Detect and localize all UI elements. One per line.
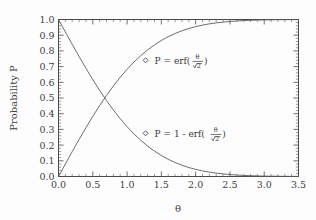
fraction-denominator: 2 (197, 62, 201, 70)
annotation-suffix: ) (204, 56, 208, 66)
y-tick-label: 0.2 (39, 140, 54, 151)
fraction-numerator: θ (214, 126, 218, 134)
plot-svg: 0.00.51.01.52.02.53.03.5 0.00.10.20.30.4… (0, 0, 316, 220)
x-tick-label: 1.0 (120, 179, 135, 190)
y-tick-label: 1.0 (39, 14, 54, 25)
x-tick-label: 0.5 (85, 179, 100, 190)
chart-page: 0.00.51.01.52.02.53.03.5 0.00.10.20.30.4… (0, 0, 316, 220)
x-tick-label: 2.5 (222, 179, 237, 190)
x-tick-label: 2.0 (188, 179, 203, 190)
x-tick-label: 3.5 (291, 179, 306, 190)
y-axis-title: Probability P (8, 65, 19, 131)
x-tick-label: 1.5 (154, 179, 169, 190)
annotation-prefix: P = erf( (155, 56, 191, 66)
y-tick-label: 0.1 (39, 155, 54, 166)
y-axis-tick-labels: 0.00.10.20.30.40.50.60.70.80.91.0 (39, 14, 54, 182)
y-tick-label: 0.7 (39, 61, 54, 72)
y-tick-label: 0.9 (39, 30, 54, 41)
y-tick-label: 0.4 (39, 108, 54, 119)
y-tick-label: 0.5 (39, 92, 54, 103)
fraction-numerator: θ (196, 53, 200, 61)
erf-probability-chart: 0.00.51.01.52.02.53.03.5 0.00.10.20.30.4… (0, 0, 316, 220)
annotation-prefix: P = 1 - erf( (155, 129, 205, 139)
y-tick-label: 0.6 (39, 77, 54, 88)
x-axis-title: θ (175, 203, 181, 214)
y-tick-label: 0.3 (39, 124, 54, 135)
x-tick-label: 3.0 (257, 179, 272, 190)
annotation-suffix: ) (222, 129, 226, 139)
fraction-denominator: 2 (215, 135, 219, 143)
y-tick-label: 0.8 (39, 45, 54, 56)
y-tick-label: 0.0 (39, 171, 54, 182)
